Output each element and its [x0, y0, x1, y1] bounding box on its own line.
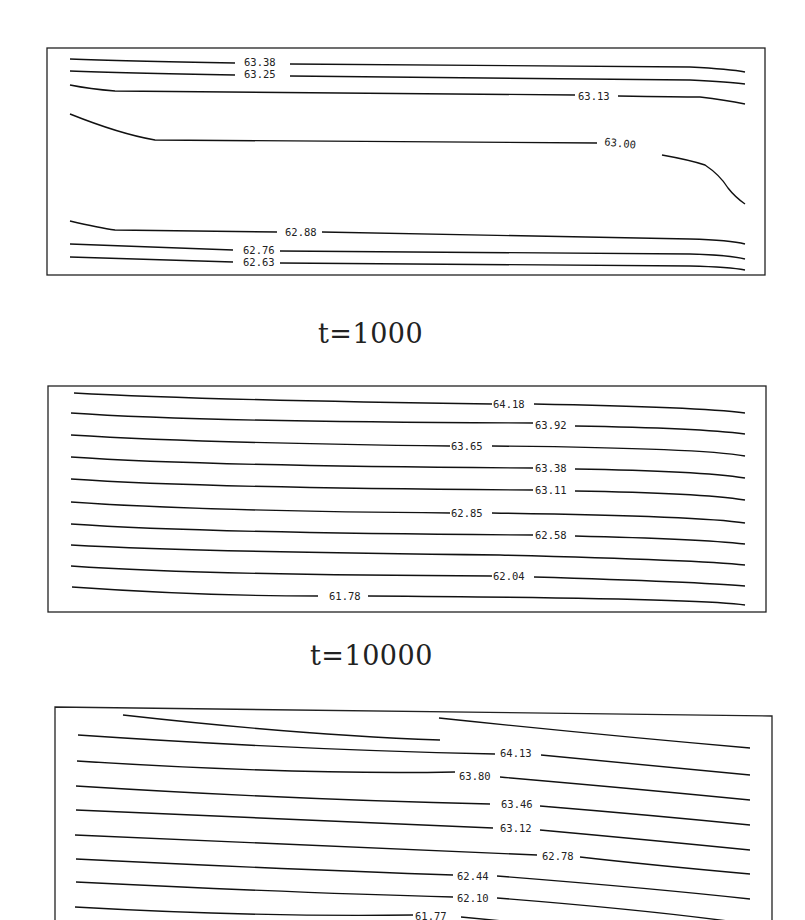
contour-panel-3: 64.13 63.80 63.46 63.12 62.78 62.44 62.1… — [0, 0, 805, 920]
contour-plot-3: 64.13 63.80 63.46 63.12 62.78 62.44 62.1… — [0, 0, 805, 920]
contour-label: 62.44 — [457, 870, 489, 882]
contour-label: 63.46 — [501, 798, 533, 810]
contour-label: 63.12 — [500, 822, 532, 834]
contour-label: 64.13 — [500, 747, 532, 759]
contour-label: 62.10 — [457, 892, 489, 904]
contour-label: 63.80 — [459, 770, 491, 782]
contour-label: 61.77 — [415, 910, 447, 920]
contour-label: 62.78 — [542, 850, 574, 862]
